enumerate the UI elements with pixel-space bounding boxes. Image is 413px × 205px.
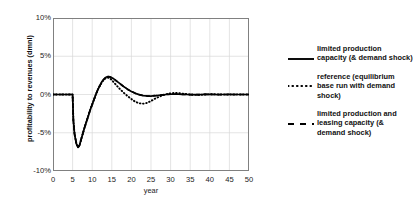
plot-area: [53, 18, 249, 171]
chart-figure: profitability to revenues (dmnl) 10%5%0%…: [0, 0, 413, 205]
legend-key-dotted-icon: [288, 75, 314, 81]
legend-key-solid-icon: [288, 48, 314, 54]
x-axis-title: year: [53, 186, 249, 195]
legend-key-dashed-icon: [288, 113, 314, 119]
x-tick-label: 50: [237, 176, 261, 184]
legend-item[interactable]: limited production capacity (& demand sh…: [288, 44, 413, 63]
plot-svg: [53, 18, 249, 171]
legend-item[interactable]: reference (equilibrium base run with dem…: [288, 72, 413, 100]
legend-label: limited production capacity (& demand sh…: [317, 44, 413, 63]
legend-label: reference (equilibrium base run with dem…: [317, 72, 413, 100]
chart-legend: limited production capacity (& demand sh…: [288, 44, 413, 146]
legend-label: limited production and leasing capacity …: [317, 109, 413, 137]
legend-item[interactable]: limited production and leasing capacity …: [288, 109, 413, 137]
